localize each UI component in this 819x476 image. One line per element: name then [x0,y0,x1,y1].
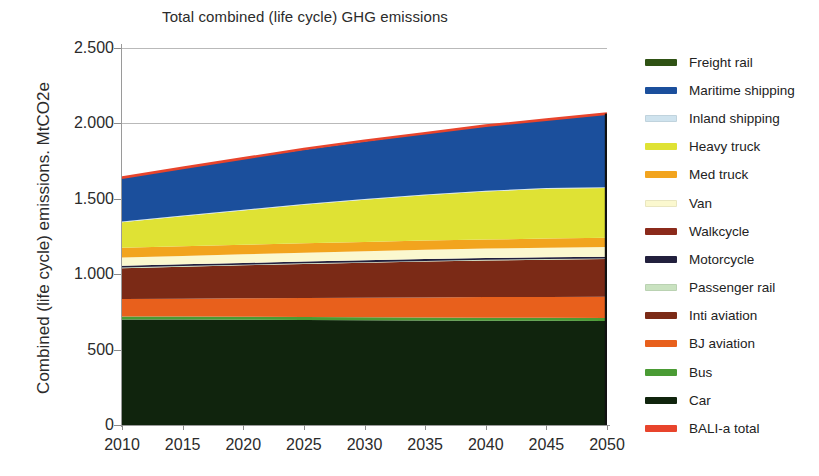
legend-item-label: Car [689,393,711,408]
legend-swatch-icon [645,228,677,235]
y-tick-label: 2.500 [74,39,114,57]
x-tick-mark [425,425,426,430]
area-band-car [122,319,607,425]
x-tick-label: 2010 [104,436,140,454]
legend-item-heavy-truck[interactable]: Heavy truck [645,133,819,161]
legend-swatch-icon [645,115,677,122]
legend: Freight railMaritime shippingInland ship… [645,48,819,443]
legend-item-car[interactable]: Car [645,386,819,414]
x-tick-label: 2030 [347,436,383,454]
x-tick-mark [122,425,123,430]
legend-item-label: Freight rail [689,55,753,70]
plot-area [122,48,607,425]
x-tick-label: 2040 [468,436,504,454]
legend-item-inland-shipping[interactable]: Inland shipping [645,104,819,132]
legend-item-label: Passenger rail [689,280,775,295]
legend-item-label: Med truck [689,167,748,182]
stacked-area-svg [122,48,607,425]
legend-item-passenger-rail[interactable]: Passenger rail [645,274,819,302]
plot-right-border [605,114,607,425]
y-tick-label: 2.000 [74,114,114,132]
y-tick-label: 1.000 [74,265,114,283]
legend-item-freight-rail[interactable]: Freight rail [645,48,819,76]
x-tick-mark [304,425,305,430]
legend-item-bus[interactable]: Bus [645,358,819,386]
legend-item-label: Maritime shipping [689,83,795,98]
legend-item-bali-a-total[interactable]: BALI-a total [645,414,819,442]
area-band-bj-aviation [122,297,607,318]
legend-swatch-icon [645,425,677,432]
x-tick-label: 2045 [529,436,565,454]
legend-item-label: Van [689,196,712,211]
x-tick-mark [607,425,608,430]
legend-swatch-icon [645,143,677,150]
legend-item-label: Motorcycle [689,252,754,267]
legend-swatch-icon [645,312,677,319]
x-axis-line [121,425,610,426]
legend-swatch-icon [645,171,677,178]
legend-swatch-icon [645,256,677,263]
legend-item-med-truck[interactable]: Med truck [645,161,819,189]
x-tick-mark [183,425,184,430]
legend-swatch-icon [645,397,677,404]
legend-item-label: BALI-a total [689,421,760,436]
legend-item-bj-aviation[interactable]: BJ aviation [645,330,819,358]
y-tick-label: 1.500 [74,190,114,208]
legend-item-label: Inti aviation [689,308,757,323]
legend-item-van[interactable]: Van [645,189,819,217]
legend-item-motorcycle[interactable]: Motorcycle [645,245,819,273]
y-tick-label: 500 [87,341,114,359]
x-tick-label: 2035 [407,436,443,454]
legend-item-label: Walkcycle [689,224,749,239]
legend-item-label: Inland shipping [689,111,780,126]
legend-item-maritime-shipping[interactable]: Maritime shipping [645,76,819,104]
x-tick-label: 2025 [286,436,322,454]
x-tick-label: 2015 [165,436,201,454]
x-tick-label: 2050 [589,436,625,454]
legend-swatch-icon [645,369,677,376]
x-tick-mark [546,425,547,430]
legend-swatch-icon [645,284,677,291]
legend-swatch-icon [645,340,677,347]
legend-swatch-icon [645,200,677,207]
legend-swatch-icon [645,87,677,94]
x-axis-ticks: 201020152020202520302035204020452050 [0,432,660,462]
x-tick-mark [365,425,366,430]
legend-item-label: Bus [689,365,712,380]
x-tick-label: 2020 [225,436,261,454]
y-axis-ticks: 05001.0001.5002.0002.500 [0,0,114,476]
legend-swatch-icon [645,59,677,66]
legend-item-label: Heavy truck [689,139,760,154]
x-tick-mark [243,425,244,430]
legend-item-walkcycle[interactable]: Walkcycle [645,217,819,245]
legend-item-label: BJ aviation [689,336,755,351]
legend-item-inti-aviation[interactable]: Inti aviation [645,302,819,330]
chart-figure: Total combined (life cycle) GHG emission… [0,0,819,476]
x-tick-mark [486,425,487,430]
